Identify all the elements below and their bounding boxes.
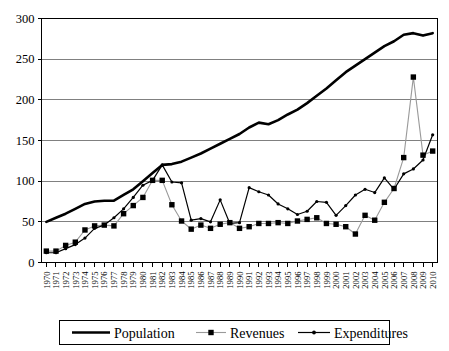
revenues-data-point (333, 222, 338, 227)
expenditures-data-point (306, 210, 309, 213)
y-tick-label: 300 (16, 12, 35, 26)
expenditures-data-point (267, 193, 270, 196)
expenditures-data-point (325, 201, 328, 204)
revenues-data-point (353, 231, 358, 236)
expenditures-data-point (122, 207, 125, 210)
revenues-data-point (304, 217, 309, 222)
x-tick-label: 2003 (360, 272, 370, 289)
x-tick-label: 1985 (186, 272, 196, 289)
revenues-data-point (411, 74, 416, 79)
y-tick-label: 100 (16, 174, 35, 188)
x-tick-label: 1983 (167, 272, 177, 289)
x-tick-label: 1995 (283, 272, 293, 289)
revenues-data-point (382, 200, 387, 205)
x-tick-label: 1984 (177, 271, 187, 289)
x-tick-label: 1996 (293, 271, 303, 289)
expenditures-data-point (248, 186, 251, 189)
revenues-data-point (208, 226, 213, 231)
y-tick-label: 150 (16, 134, 35, 148)
x-tick-label: 2005 (380, 272, 390, 289)
y-tick-label: 200 (16, 93, 35, 107)
x-tick-label: 1990 (235, 272, 245, 289)
x-tick-label: 1997 (302, 271, 312, 289)
chart-legend: PopulationRevenuesExpenditures (60, 321, 408, 345)
expenditures-data-point (199, 217, 202, 220)
expenditures-markers (45, 133, 435, 254)
expenditures-data-point (402, 172, 405, 175)
expenditures-data-point (421, 158, 424, 161)
x-axis-tick-labels: 1970197119721973197419751976197719781979… (42, 271, 438, 289)
revenues-data-point (160, 178, 165, 183)
x-tick-label: 2009 (418, 272, 428, 289)
series-expenditures (45, 133, 435, 254)
x-tick-label: 1988 (215, 272, 225, 289)
x-tick-label: 1976 (99, 271, 109, 289)
expenditures-data-point (363, 188, 366, 191)
expenditures-data-point (334, 214, 337, 217)
revenues-data-point (362, 213, 367, 218)
x-tick-label: 1986 (196, 271, 206, 289)
revenues-data-point (131, 203, 136, 208)
x-tick-label: 2000 (331, 272, 341, 289)
revenues-data-point (266, 221, 271, 226)
expenditures-data-point (141, 184, 144, 187)
expenditures-data-point (344, 204, 347, 207)
expenditures-data-point (54, 251, 57, 254)
x-tick-label: 1979 (128, 272, 138, 289)
legend-swatch-expenditures-marker (312, 331, 316, 335)
revenues-data-point (314, 215, 319, 220)
x-tick-label: 1973 (71, 272, 81, 289)
revenues-data-point (285, 221, 290, 226)
expenditures-data-point (74, 243, 77, 246)
expenditures-data-point (45, 251, 48, 254)
x-tick-label: 1981 (148, 272, 158, 289)
legend-label: Expenditures (334, 326, 408, 341)
x-tick-label: 1971 (51, 272, 61, 289)
x-tick-label: 2008 (409, 272, 419, 289)
x-tick-label: 1977 (109, 271, 119, 289)
x-tick-label: 2004 (370, 271, 380, 289)
expenditures-data-point (257, 190, 260, 193)
x-tick-label: 2010 (428, 272, 438, 289)
revenues-data-point (169, 202, 174, 207)
revenues-data-point (430, 148, 435, 153)
revenues-data-point (324, 221, 329, 226)
expenditures-data-point (286, 207, 289, 210)
expenditures-data-point (315, 200, 318, 203)
revenues-data-point (246, 224, 251, 229)
x-tick-label: 1999 (322, 272, 332, 289)
expenditures-data-point (296, 213, 299, 216)
x-tick-label: 1991 (244, 272, 254, 289)
revenues-data-point (217, 222, 222, 227)
expenditures-data-point (277, 202, 280, 205)
x-tick-label: 1987 (206, 271, 216, 289)
expenditures-data-point (383, 176, 386, 179)
expenditures-data-point (209, 220, 212, 223)
line-chart: 050100150200250300 197019711972197319741… (0, 0, 449, 351)
expenditures-data-point (238, 221, 241, 224)
x-tick-label: 2007 (399, 271, 409, 289)
expenditures-data-point (180, 181, 183, 184)
revenues-data-point (82, 227, 87, 232)
expenditures-data-point (354, 193, 357, 196)
expenditures-data-point (103, 223, 106, 226)
x-axis-tickmarks (46, 263, 432, 267)
x-tick-label: 1978 (119, 272, 129, 289)
revenues-data-point (198, 222, 203, 227)
revenues-data-point (401, 155, 406, 160)
series-revenues (44, 74, 436, 253)
x-tick-label: 1998 (312, 272, 322, 289)
revenues-markers (44, 74, 436, 253)
expenditures-data-point (83, 237, 86, 240)
revenues-data-point (256, 221, 261, 226)
expenditures-data-point (93, 227, 96, 230)
chart-container: 050100150200250300 197019711972197319741… (0, 0, 449, 351)
x-tick-label: 1992 (254, 272, 264, 289)
revenues-data-point (295, 218, 300, 223)
x-tick-label: 2002 (351, 272, 361, 289)
expenditures-data-point (228, 222, 231, 225)
revenues-data-point (121, 211, 126, 216)
x-tick-label: 1974 (80, 271, 90, 289)
expenditures-data-point (219, 198, 222, 201)
x-tick-label: 1980 (138, 272, 148, 289)
